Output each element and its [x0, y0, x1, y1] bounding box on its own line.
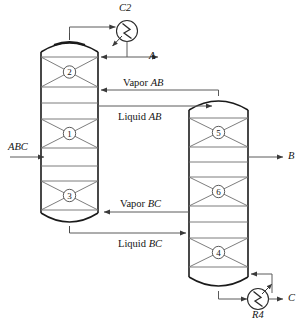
liquid-ab-species: AB [149, 111, 162, 122]
stream-overhead-vapor [70, 27, 116, 33]
process-flow-diagram: 2 1 3 [0, 0, 305, 323]
stream-vapor-ab [101, 90, 219, 96]
stream-label-liquid-bc: Liquid BC [118, 239, 162, 250]
reboiler-r4 [248, 284, 273, 310]
stream-label-liquid-ab: Liquid AB [118, 112, 161, 123]
liquid-ab-word: Liquid [118, 111, 146, 122]
liquid-bc-word: Liquid [118, 238, 146, 249]
section-tag-3: 3 [67, 191, 72, 201]
stream-label-b: B [288, 151, 294, 162]
reboiler-label: R4 [252, 310, 264, 321]
condenser-c2 [113, 21, 138, 47]
section-tag-4: 4 [216, 248, 221, 258]
vapor-bc-word: Vapor [120, 198, 145, 209]
section-tag-5: 5 [216, 128, 221, 138]
stream-label-vapor-ab: Vapor AB [123, 78, 164, 89]
liquid-bc-species: BC [149, 238, 162, 249]
vapor-ab-word: Vapor [123, 77, 148, 88]
stream-label-abc: ABC [8, 142, 28, 153]
right-column-section-tags: 5 6 4 [212, 126, 224, 258]
stream-label-vapor-bc: Vapor BC [120, 199, 161, 210]
diagram-canvas: 2 1 3 [0, 0, 305, 323]
stream-label-a: A [149, 51, 155, 62]
stream-bottoms-to-reboiler [219, 291, 248, 299]
section-tag-2: 2 [67, 67, 72, 77]
stream-label-c: C [288, 293, 295, 304]
condenser-label: C2 [119, 3, 131, 14]
vapor-bc-species: BC [148, 198, 161, 209]
section-tag-1: 1 [67, 129, 72, 139]
vapor-ab-species: AB [151, 77, 164, 88]
section-tag-6: 6 [216, 187, 221, 197]
